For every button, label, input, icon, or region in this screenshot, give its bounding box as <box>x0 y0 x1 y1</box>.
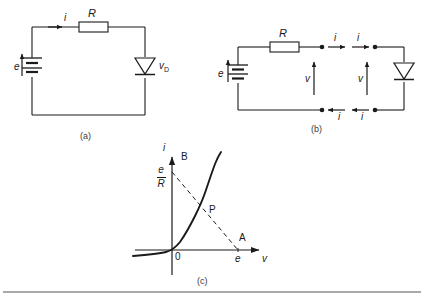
label-c-axis-v: v <box>262 254 267 264</box>
diode-a-triangle <box>135 58 155 74</box>
label-b-current-top-left: i <box>334 33 336 43</box>
label-b-voltage-left: v <box>305 74 310 84</box>
panel-a-circuit <box>22 22 155 115</box>
caption-panel-b: (b) <box>311 124 322 134</box>
label-c-point-a: A <box>239 233 246 243</box>
resistor-b-body <box>270 42 299 52</box>
curve-c-diode-characteristic <box>133 152 221 256</box>
label-c-intercept-numerator: e <box>154 165 168 176</box>
label-a-diode-voltage-subscript: D <box>164 66 169 73</box>
label-c-point-b: B <box>181 152 188 162</box>
panel-b-circuit <box>228 42 414 112</box>
label-b-resistor-R: R <box>279 28 287 39</box>
label-c-x-intercept: e <box>235 254 241 264</box>
label-b-source-e: e <box>218 69 224 79</box>
label-c-axis-i: i <box>163 143 165 153</box>
label-a-resistor-R: R <box>88 8 96 19</box>
label-b-current-bottom-left: i <box>338 112 340 122</box>
caption-panel-a: (a) <box>80 131 91 141</box>
label-c-y-intercept-fraction: e R <box>154 165 168 189</box>
diode-b-triangle <box>394 63 414 79</box>
figure-diode-load-line: e i R vD (a) e R i i i i v v (b) i v 0 B… <box>0 0 424 298</box>
label-c-origin: 0 <box>175 252 181 262</box>
figure-vector-canvas <box>0 0 424 298</box>
caption-panel-c: (c) <box>197 276 208 286</box>
terminal-b-left-bottom <box>320 108 325 113</box>
label-b-current-bottom-right: i <box>361 112 363 122</box>
terminal-b-left-top <box>320 45 325 50</box>
label-a-current-i: i <box>64 13 66 23</box>
label-c-intercept-denominator: R <box>154 179 168 190</box>
label-c-point-p: P <box>209 205 216 215</box>
resistor-a-body <box>79 22 108 32</box>
label-a-source-e: e <box>14 62 20 72</box>
label-b-current-top-right: i <box>357 33 359 43</box>
label-b-voltage-right: v <box>358 74 363 84</box>
